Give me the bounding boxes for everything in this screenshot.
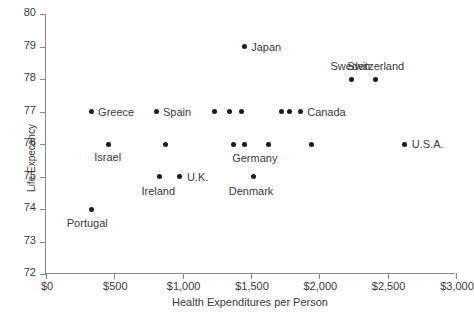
data-point bbox=[89, 207, 94, 212]
data-point bbox=[373, 77, 378, 82]
data-point bbox=[177, 174, 182, 179]
data-point bbox=[89, 109, 94, 114]
x-tick: $3,000 bbox=[456, 273, 457, 279]
x-tick: $1,000 bbox=[183, 273, 184, 279]
data-point bbox=[239, 109, 244, 114]
y-tick: 79 bbox=[40, 47, 46, 48]
data-point bbox=[163, 142, 168, 147]
x-tick-label: $3,000 bbox=[440, 281, 474, 292]
x-tick-label: $2,500 bbox=[372, 281, 406, 292]
x-tick-label: $0 bbox=[41, 281, 53, 292]
y-tick-label: 78 bbox=[24, 72, 36, 83]
data-point bbox=[402, 142, 407, 147]
data-point bbox=[298, 109, 303, 114]
y-tick-label: 74 bbox=[24, 202, 36, 213]
data-point-label: Japan bbox=[251, 41, 281, 53]
data-point-label: Germany bbox=[232, 152, 277, 164]
data-point bbox=[231, 142, 236, 147]
data-point-label: U.S.A. bbox=[412, 138, 444, 150]
data-point-label: Portugal bbox=[67, 217, 108, 229]
y-tick-label: 76 bbox=[24, 137, 36, 148]
y-tick-label: 77 bbox=[24, 105, 36, 116]
x-tick-label: $2,000 bbox=[304, 281, 338, 292]
y-tick: 77 bbox=[40, 112, 46, 113]
data-point-label: Canada bbox=[307, 106, 346, 118]
y-tick: 80 bbox=[40, 14, 46, 15]
x-tick: $0 bbox=[46, 273, 47, 279]
data-point bbox=[251, 174, 256, 179]
x-tick: $1,500 bbox=[251, 273, 252, 279]
x-tick: $500 bbox=[114, 273, 115, 279]
y-tick: 74 bbox=[40, 209, 46, 210]
data-point bbox=[106, 142, 111, 147]
data-point-label: Israel bbox=[94, 151, 121, 163]
y-tick-label: 79 bbox=[24, 40, 36, 51]
data-point-label: Switzerland bbox=[347, 60, 404, 72]
y-tick-label: 75 bbox=[24, 170, 36, 181]
data-point bbox=[349, 77, 354, 82]
x-tick-label: $500 bbox=[103, 281, 127, 292]
data-point bbox=[242, 44, 247, 49]
data-point-label: U.K. bbox=[187, 171, 208, 183]
x-tick: $2,000 bbox=[319, 273, 320, 279]
y-tick: 75 bbox=[40, 177, 46, 178]
y-tick: 73 bbox=[40, 242, 46, 243]
data-point bbox=[287, 109, 292, 114]
data-point bbox=[212, 109, 217, 114]
plot-area: 727374757677787980 $0$500$1,000$1,500$2,… bbox=[45, 14, 455, 274]
x-tick-label: $1,500 bbox=[235, 281, 269, 292]
y-tick-label: 73 bbox=[24, 235, 36, 246]
data-point-label: Greece bbox=[98, 106, 134, 118]
data-point-label: Denmark bbox=[229, 185, 274, 197]
y-axis-title: Life Expecancy bbox=[26, 124, 37, 192]
data-point-label: Spain bbox=[163, 106, 191, 118]
x-axis-title: Health Expenditures per Person bbox=[45, 296, 455, 308]
data-point bbox=[227, 109, 232, 114]
y-tick-label: 80 bbox=[24, 7, 36, 18]
y-tick: 78 bbox=[40, 79, 46, 80]
x-tick-label: $1,000 bbox=[167, 281, 201, 292]
y-tick: 76 bbox=[40, 144, 46, 145]
data-point-label: Ireland bbox=[141, 185, 175, 197]
y-tick-label: 72 bbox=[24, 267, 36, 278]
x-tick: $2,500 bbox=[388, 273, 389, 279]
data-point bbox=[242, 142, 247, 147]
data-point bbox=[279, 109, 284, 114]
data-point bbox=[154, 109, 159, 114]
data-point bbox=[157, 174, 162, 179]
data-point bbox=[309, 142, 314, 147]
data-point bbox=[266, 142, 271, 147]
